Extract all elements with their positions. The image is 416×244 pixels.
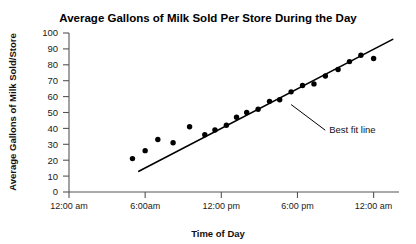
- y-tick-label: 100: [42, 27, 58, 38]
- x-axis-ticks: 12:00 am6:00am12:00 pm6:00 pm12:00 am: [50, 192, 392, 211]
- y-tick-label: 0: [53, 186, 58, 197]
- y-tick-label: 60: [47, 91, 58, 102]
- y-axis-ticks: 0102030405060708090100: [42, 27, 69, 197]
- y-tick-label: 80: [47, 59, 58, 70]
- data-point: [130, 156, 135, 161]
- y-axis: 0102030405060708090100: [42, 27, 69, 197]
- data-point: [371, 56, 376, 61]
- x-tick-label: 6:00 pm: [281, 201, 314, 211]
- y-tick-label: 90: [47, 43, 58, 54]
- best-fit-line-annotation-label: Best fit line: [329, 124, 375, 135]
- y-tick-label: 40: [47, 123, 58, 134]
- best-fit-line-layer: [139, 39, 393, 171]
- x-tick-label: 12:00 am: [355, 201, 393, 211]
- milk-sales-scatter-chart: Average Gallons of Milk Sold Per Store D…: [0, 0, 416, 244]
- x-tick-label: 12:00 am: [50, 201, 88, 211]
- y-axis-title: Average Gallons of Milk Sold/Store: [7, 33, 18, 191]
- y-tick-label: 70: [47, 75, 58, 86]
- data-point: [170, 140, 175, 145]
- y-tick-label: 50: [47, 107, 58, 118]
- y-tick-label: 30: [47, 139, 58, 150]
- data-points-layer: [130, 53, 377, 162]
- data-point: [142, 148, 147, 153]
- x-axis-title: Time of Day: [191, 228, 245, 239]
- chart-title: Average Gallons of Milk Sold Per Store D…: [59, 12, 357, 24]
- best-fit-line: [139, 39, 393, 171]
- y-tick-label: 10: [47, 171, 58, 182]
- x-axis: 12:00 am6:00am12:00 pm6:00 pm12:00 am: [50, 192, 399, 211]
- chart-container: Average Gallons of Milk Sold Per Store D…: [0, 0, 416, 244]
- annotation-leader-line: [291, 105, 325, 131]
- y-tick-label: 20: [47, 155, 58, 166]
- data-point: [187, 124, 192, 129]
- data-point: [155, 137, 160, 142]
- x-tick-label: 12:00 pm: [203, 201, 241, 211]
- x-tick-label: 6:00am: [130, 201, 160, 211]
- annotation-layer: Best fit line: [291, 105, 376, 136]
